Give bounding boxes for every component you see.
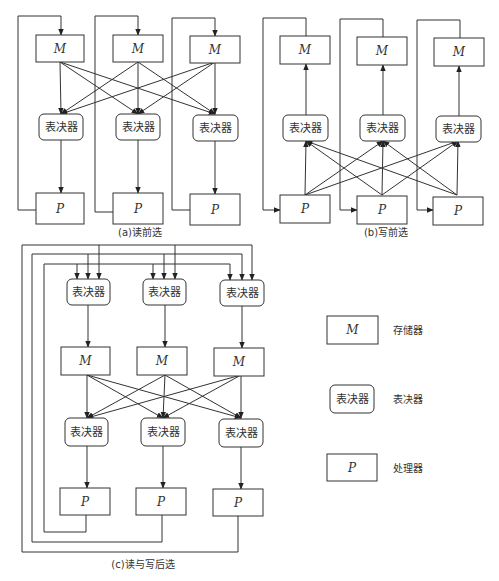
legend-symbol-text: M (345, 323, 359, 337)
memory-box-2-label: M (155, 354, 169, 368)
cross-link-1-to-1 (305, 141, 306, 195)
processor-box-2-label: P (133, 202, 143, 216)
voter-box-1: 表决器 (39, 114, 83, 140)
processor-box-3: P (213, 489, 263, 516)
panel-caption: (c)读与写后选 (111, 558, 174, 570)
cross-link-3-to-3 (457, 141, 458, 195)
processor-box-1-label: P (80, 495, 90, 509)
legend-label: 处理器 (393, 463, 423, 474)
voter-box-3: 表决器 (193, 115, 238, 141)
cross-link-1-to-1 (60, 62, 61, 114)
processor-box-1-label: P (55, 202, 65, 216)
memory-box-3-label: M (208, 43, 222, 57)
processor-box-2-label: P (377, 203, 387, 217)
legend-symbol-text: 表决器 (336, 392, 369, 406)
processor-box-3: P (433, 197, 483, 225)
top-voter-box-1: 表决器 (67, 279, 110, 305)
top-voter-box-2: 表决器 (143, 279, 186, 305)
top-voter-box-3-label: 表决器 (226, 286, 259, 300)
voter-box-3-label: 表决器 (225, 426, 258, 440)
memory-box-3: M (190, 36, 240, 63)
memory-box-2: M (113, 35, 163, 62)
legend-label: 存储器 (393, 324, 423, 336)
redundancy-voting-diagram: MMM表决器表决器表决器PPP(a)读前选 MMM表决器表决器表决器PPP(b)… (0, 0, 499, 581)
voter-box-1-label: 表决器 (45, 120, 78, 134)
legend-item-2: 表决器表决器 (330, 385, 423, 413)
processor-box-2-label: P (156, 495, 166, 509)
voter-box-1: 表决器 (283, 115, 328, 141)
voter-box-2: 表决器 (360, 115, 405, 141)
panel-caption: (b)写前选 (364, 226, 408, 238)
memory-box-1-label: M (298, 43, 312, 57)
memory-box-2: M (357, 37, 407, 65)
voter-box-2: 表决器 (141, 418, 185, 446)
processor-box-3-label: P (233, 496, 243, 510)
processor-box-3-label: P (453, 204, 463, 218)
panel-caption: (a)读前选 (118, 226, 162, 238)
voter-box-2-label: 表决器 (122, 120, 155, 134)
memory-box-3: M (434, 38, 484, 66)
top-voter-box-3: 表决器 (220, 280, 264, 306)
voter-box-2: 表决器 (116, 114, 160, 140)
panel-a-read-pre-vote: MMM表决器表决器表决器PPP(a)读前选 (18, 16, 240, 238)
voter-box-3-label: 表决器 (442, 122, 475, 136)
legend: M存储器表决器表决器P处理器 (327, 316, 423, 481)
memory-box-3-label: M (232, 355, 246, 369)
voter-box-3: 表决器 (219, 419, 263, 447)
voter-box-1-label: 表决器 (70, 425, 103, 439)
memory-box-2: M (137, 347, 187, 375)
voter-box-1-label: 表决器 (289, 121, 322, 135)
legend-symbol-text: P (347, 461, 357, 475)
memory-box-3: M (214, 348, 264, 376)
processor-box-1: P (280, 195, 330, 223)
processor-box-2: P (113, 193, 163, 224)
top-voter-box-2-label: 表决器 (148, 285, 181, 299)
legend-item-3: P处理器 (327, 454, 423, 481)
processor-box-2: P (357, 196, 407, 224)
processor-box-1-label: P (300, 202, 310, 216)
legend-item-1: M存储器 (327, 316, 423, 344)
voter-box-1: 表决器 (65, 418, 108, 446)
processor-box-2: P (136, 488, 186, 515)
memory-box-2-label: M (131, 42, 145, 56)
voter-box-2-label: 表决器 (147, 425, 180, 439)
panel-b-write-pre-vote: MMM表决器表决器表决器PPP(b)写前选 (263, 18, 484, 238)
legend-label: 表决器 (393, 393, 423, 405)
processor-box-3: P (190, 194, 240, 225)
memory-box-1-label: M (53, 42, 67, 56)
memory-box-2-label: M (375, 44, 389, 58)
processor-box-1: P (36, 193, 84, 224)
memory-box-1-label: M (78, 354, 92, 368)
voter-box-3-label: 表决器 (199, 121, 232, 135)
memory-box-1: M (61, 347, 110, 375)
voter-box-3: 表决器 (436, 116, 481, 142)
processor-box-1: P (60, 488, 110, 515)
memory-box-1: M (36, 35, 84, 62)
top-voter-box-1-label: 表决器 (72, 285, 105, 299)
memory-box-1: M (280, 36, 330, 64)
memory-box-3-label: M (452, 45, 466, 59)
processor-box-3-label: P (210, 203, 220, 217)
voter-box-2-label: 表决器 (366, 121, 399, 135)
panel-c-read-write-post-vote: 表决器表决器表决器MMM表决器表决器表决器PPP(c)读与写后选 (22, 245, 264, 570)
